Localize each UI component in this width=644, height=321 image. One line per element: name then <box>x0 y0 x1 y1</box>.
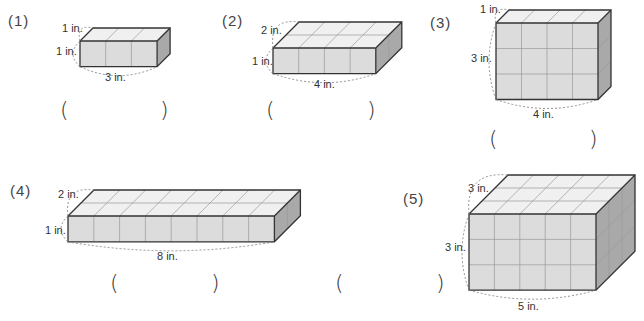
problem-3-answer-close: ) <box>589 126 598 151</box>
problem-1-number: (1) <box>8 12 29 29</box>
box-problem-3 <box>489 9 611 108</box>
problem-1-answer-field[interactable] <box>72 100 158 124</box>
problem-1-width-label: 1 in. <box>62 22 83 34</box>
problem-4-answer-close: ) <box>211 270 220 295</box>
problem-3-answer-open: ( <box>489 126 498 151</box>
problem-2-answer-open: ( <box>266 97 275 122</box>
box-problem-2 <box>266 22 402 83</box>
problem-1-length-label: 3 in. <box>105 71 126 83</box>
problem-4-answer-open: ( <box>110 270 119 295</box>
problem-3-height-label: 3 in. <box>471 52 492 64</box>
problem-2-answer-field[interactable] <box>280 100 364 124</box>
problem-4-height-label: 1 in. <box>45 224 66 236</box>
problem-1-height-label: 1 in. <box>56 45 77 57</box>
problem-5-answer-open: ( <box>335 270 344 295</box>
problem-5-answer-close: ) <box>436 270 445 295</box>
box-problem-1 <box>73 27 170 75</box>
problem-3-length-label: 4 in. <box>533 108 554 120</box>
problem-2-width-label: 2 in. <box>261 24 282 36</box>
problem-5-answer-field[interactable] <box>350 273 434 297</box>
problem-5-length-label: 5 in. <box>518 300 539 312</box>
problem-2-answer-close: ) <box>367 97 376 122</box>
problem-5-number: (5) <box>403 190 424 207</box>
problem-4-number: (4) <box>10 182 31 199</box>
problem-2-length-label: 4 in. <box>314 78 335 90</box>
problem-2-height-label: 1 in. <box>252 55 273 67</box>
problem-2-number: (2) <box>222 12 243 29</box>
problem-3-answer-field[interactable] <box>502 129 586 153</box>
problem-5-width-label: 3 in. <box>468 182 489 194</box>
problem-3-width-label: 1 in. <box>480 3 501 15</box>
problem-1-answer-open: ( <box>60 97 69 122</box>
problem-4-answer-field[interactable] <box>124 273 208 297</box>
problem-4-width-label: 2 in. <box>58 188 79 200</box>
figures-canvas <box>0 0 644 321</box>
problem-3-number: (3) <box>430 14 451 31</box>
problem-5-height-label: 3 in. <box>445 241 466 253</box>
problem-4-length-label: 8 in. <box>157 250 178 262</box>
box-problem-4 <box>61 190 300 251</box>
problem-1-answer-close: ) <box>160 97 169 122</box>
